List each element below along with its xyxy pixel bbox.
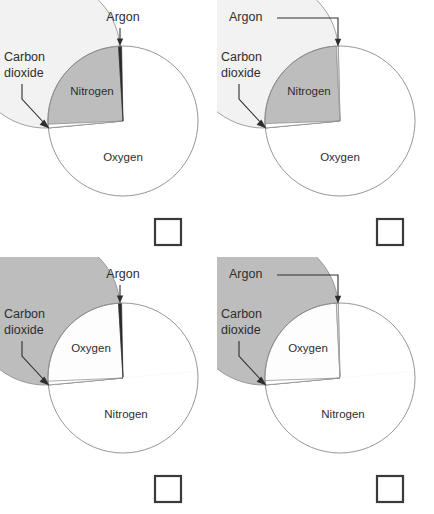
carbon-dioxide-label-line1: Carbon	[4, 50, 45, 64]
oxygen-label: Oxygen	[103, 151, 143, 163]
nitrogen-boundary-line	[123, 371, 198, 378]
carbon-dioxide-label-line2: dioxide	[221, 66, 261, 80]
chart-panel-c: Argon Carbon dioxide Oxygen Nitrogen	[0, 257, 217, 514]
carbon-dioxide-label-line1: Carbon	[221, 50, 262, 64]
carbon-dioxide-label-line1: Carbon	[221, 307, 262, 321]
oxygen-label: Oxygen	[288, 342, 328, 354]
nitrogen-label: Nitrogen	[321, 408, 364, 420]
argon-label: Argon	[106, 267, 139, 281]
answer-box-a[interactable]	[155, 219, 181, 245]
carbon-dioxide-label-line2: dioxide	[4, 323, 44, 337]
carbon-dioxide-label-line1: Carbon	[4, 307, 45, 321]
pie-chart-question-sheet: Argon Carbon dioxide Nitrogen Oxygen Arg…	[0, 0, 434, 514]
chart-panel-a: Argon Carbon dioxide Nitrogen Oxygen	[0, 0, 217, 257]
argon-label: Argon	[229, 267, 262, 281]
answer-box-d[interactable]	[377, 476, 403, 502]
carbon-dioxide-label-line2: dioxide	[221, 323, 261, 337]
nitrogen-label: Nitrogen	[287, 85, 330, 97]
argon-label: Argon	[229, 10, 262, 24]
chart-panel-d: Argon Carbon dioxide Oxygen Nitrogen	[217, 257, 434, 514]
oxygen-label: Oxygen	[320, 151, 360, 163]
nitrogen-boundary-line	[340, 371, 415, 378]
oxygen-label: Oxygen	[71, 342, 111, 354]
carbon-dioxide-label-line2: dioxide	[4, 66, 44, 80]
answer-box-b[interactable]	[377, 219, 403, 245]
nitrogen-label: Nitrogen	[104, 408, 147, 420]
nitrogen-label: Nitrogen	[70, 85, 113, 97]
argon-label: Argon	[106, 10, 139, 24]
answer-box-c[interactable]	[155, 476, 181, 502]
chart-panel-b: Argon Carbon dioxide Nitrogen Oxygen	[217, 0, 434, 257]
